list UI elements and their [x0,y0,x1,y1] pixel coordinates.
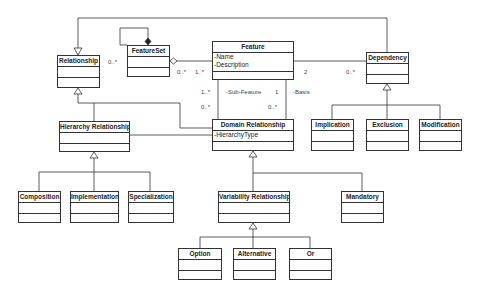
class-attributes [71,203,118,214]
multiplicity-featureset-aggregation: 0..* [177,69,186,76]
class-operations [290,271,331,279]
class-option[interactable]: Option [178,248,222,280]
class-relationship[interactable]: Relationship [57,55,100,88]
class-domain-relationship[interactable]: Domain Relationship -HierarchyType [212,119,294,151]
class-featureset[interactable]: FeatureSet [127,45,170,77]
class-name: Specialization [129,192,173,203]
class-operations [179,271,221,279]
class-operations [219,214,289,222]
class-operations [60,144,129,151]
class-exclusion[interactable]: Exclusion [366,119,409,151]
class-mandatory[interactable]: Mandatory [341,191,384,223]
class-attributes [128,57,169,68]
class-implementation[interactable]: Implementation [70,191,119,223]
domain-triangle [249,151,257,157]
class-attributes [60,133,129,144]
class-attributes [290,260,331,271]
multiplicity-relationship-featureset: 0..* [108,59,117,66]
class-name: Implication [312,120,353,131]
class-operations [367,142,408,150]
multiplicity-sub-feature-top: 1..* [201,89,210,96]
class-name: Mandatory [342,192,383,203]
class-specialization[interactable]: Specialization [128,191,174,223]
multiplicity-dependency-feature: 0..* [346,69,355,76]
attribute-hierarchytype: -HierarchyType [214,131,293,139]
class-name: Variability Relationship [219,192,289,203]
aggregation-diamond [170,58,177,64]
class-operations [213,72,293,79]
class-attributes [219,203,289,214]
class-attributes [234,260,275,271]
class-attributes [179,260,221,271]
class-name: Feature [213,42,293,53]
relationship-top-triangle [74,48,82,55]
class-variability-relationship[interactable]: Variability Relationship [218,191,290,223]
dependency-triangle [383,84,391,90]
role-sub-feature: -Sub-Feature [226,89,261,96]
class-modification[interactable]: Modification [419,119,462,151]
class-name: Or [290,249,331,260]
class-name: Composition [19,192,60,203]
class-attributes: -HierarchyType [213,131,293,142]
hierarchy-triangle [90,152,98,158]
class-name: Relationship [58,56,99,67]
class-name: Dependency [367,53,408,64]
featureset-self-composition-line [120,28,148,45]
class-attributes [342,203,383,214]
class-name: Implementation [71,192,118,203]
class-attributes [312,131,353,142]
class-operations [71,214,118,222]
multiplicity-sub-feature-bottom: 0..* [201,104,210,111]
class-hierarchy-relationship[interactable]: Hierarchy Relationship [59,121,130,152]
class-attributes [129,203,173,214]
dependency-subclass-bar [332,105,440,119]
class-operations [234,271,275,279]
class-name: Exclusion [367,120,408,131]
variability-triangle [249,223,257,229]
class-operations [19,214,60,222]
class-or[interactable]: Or [289,248,332,280]
class-operations [420,142,461,150]
class-operations [129,214,173,222]
class-operations [58,78,99,87]
class-implication[interactable]: Implication [311,119,354,151]
class-attributes: -Name -Description [213,53,293,72]
class-name: FeatureSet [128,46,169,57]
class-operations [213,142,293,150]
attribute-description: -Description [214,61,293,69]
class-operations [367,75,408,83]
class-attributes [58,67,99,78]
class-feature[interactable]: Feature -Name -Description [212,41,294,80]
class-name: Modification [420,120,461,131]
class-operations [312,142,353,150]
multiplicity-feature-dependency: 2 [304,69,307,76]
hierarchy-subclass-bar [39,172,150,191]
class-alternative[interactable]: Alternative [233,248,276,280]
class-operations [342,214,383,222]
composition-diamond [145,38,151,45]
variability-subclass-bar [200,237,310,248]
role-basis: -Basis [293,89,310,96]
class-attributes [420,131,461,142]
class-attributes [367,131,408,142]
class-dependency[interactable]: Dependency [366,52,409,84]
class-name: Alternative [234,249,275,260]
class-name: Hierarchy Relationship [60,122,129,133]
attribute-name: -Name [214,53,293,61]
multiplicity-basis-bottom: 0..* [268,104,277,111]
relationship-bottom-triangle [74,88,82,94]
class-attributes [367,64,408,75]
multiplicity-basis-top: 1 [275,89,278,96]
class-composition[interactable]: Composition [18,191,61,223]
multiplicity-feature-featureset: 1..* [195,69,204,76]
domain-subclass-bar [253,173,362,191]
class-name: Option [179,249,221,260]
class-name: Domain Relationship [213,120,293,131]
class-operations [128,68,169,76]
class-attributes [19,203,60,214]
